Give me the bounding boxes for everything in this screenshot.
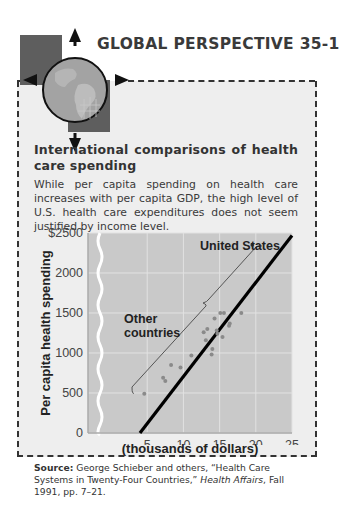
country-data-point bbox=[213, 317, 217, 321]
country-data-point bbox=[218, 311, 222, 315]
country-data-point bbox=[163, 379, 167, 383]
source-label: Source: bbox=[34, 462, 73, 473]
country-data-point bbox=[220, 335, 224, 339]
y-tick-label: 0 bbox=[76, 426, 83, 440]
country-data-point bbox=[142, 392, 146, 396]
y-tick-label: 1500 bbox=[55, 306, 83, 320]
country-data-point bbox=[202, 330, 206, 334]
scatter-chart: 0500100015002000$2500 510152025 United S… bbox=[30, 225, 315, 445]
y-tick-label: 1000 bbox=[55, 346, 83, 360]
y-tick-label: 2000 bbox=[55, 266, 83, 280]
source-journal: Health Affairs bbox=[200, 474, 263, 485]
y-tick-label: 500 bbox=[62, 386, 83, 400]
country-data-point bbox=[239, 311, 243, 315]
country-data-point bbox=[215, 332, 219, 336]
global-perspective-heading: GLOBAL PERSPECTIVE 35-1 bbox=[97, 35, 340, 53]
country-data-point bbox=[169, 363, 173, 367]
x-tick-label: 25 bbox=[285, 438, 299, 445]
x-axis-title-line2: (thousands of dollars) bbox=[120, 441, 260, 456]
country-data-point bbox=[210, 347, 214, 351]
country-data-point bbox=[228, 321, 232, 325]
source-citation: Source: George Schieber and others, “Hea… bbox=[34, 462, 304, 498]
panel-top-border bbox=[118, 80, 315, 82]
other-countries-label-1: Other bbox=[124, 312, 157, 326]
country-data-point bbox=[189, 353, 193, 357]
other-countries-label-2: countries bbox=[124, 326, 180, 340]
country-data-point bbox=[204, 338, 208, 342]
us-label: United States bbox=[200, 239, 280, 253]
y-axis-title: Per capita health spending bbox=[38, 250, 53, 415]
country-data-point bbox=[179, 365, 183, 369]
country-data-point bbox=[210, 353, 214, 357]
figure-title: International comparisons of health care… bbox=[34, 142, 298, 174]
globe-compass-icon bbox=[20, 25, 130, 155]
y-tick-label: $2500 bbox=[48, 226, 83, 240]
country-data-point bbox=[205, 327, 209, 331]
plot-area bbox=[88, 233, 292, 433]
country-data-point bbox=[222, 311, 226, 315]
